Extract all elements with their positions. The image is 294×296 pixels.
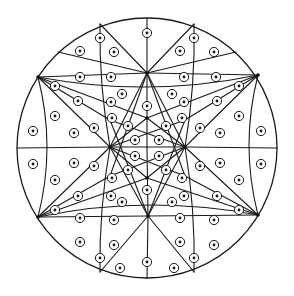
dot-in-circle-icon (69, 158, 78, 167)
marker-dot (165, 125, 168, 128)
marker-dot (193, 37, 196, 40)
marker-dot (173, 267, 176, 270)
marker-dot (199, 127, 202, 130)
marker-dot (127, 125, 130, 128)
marker-dot (119, 267, 122, 270)
dot-in-circle-icon (175, 213, 184, 222)
vertex-hub (256, 213, 260, 217)
marker-dot (238, 179, 241, 182)
vertical-axis-bottom (147, 216, 148, 278)
marker-dot (54, 179, 57, 182)
marker-dot (32, 130, 35, 133)
dot-in-circle-icon (75, 72, 84, 81)
dot-in-circle-icon (69, 128, 78, 137)
marker-dot (213, 244, 216, 247)
dot-in-circle-icon (123, 121, 132, 130)
marker-dot (146, 261, 149, 264)
spoke-line (38, 73, 147, 77)
marker-dot (219, 132, 222, 135)
arc-left (38, 77, 47, 217)
dot-in-circle-icon (73, 96, 82, 105)
vertex-hub (145, 116, 149, 120)
dot-in-circle-icon (50, 205, 59, 214)
marker-dot (213, 219, 216, 222)
dot-in-circle-icon (142, 28, 151, 37)
spoke-line (148, 215, 258, 216)
dot-in-circle-icon (50, 175, 59, 184)
marker-dot (165, 169, 168, 172)
marker-dot (54, 209, 57, 212)
marker-dot (199, 165, 202, 168)
vertex-hub (36, 215, 40, 219)
horizontal-axis-right (185, 147, 277, 148)
spoke-line (100, 216, 148, 272)
spoke-line (100, 24, 147, 73)
marker-dot (171, 201, 174, 204)
dot-in-circle-icon (167, 89, 176, 98)
dot-in-circle-icon (177, 173, 186, 182)
marker-dot (54, 115, 57, 118)
marker-dot (146, 32, 149, 35)
marker-dot (111, 177, 114, 180)
dot-in-circle-icon (75, 46, 84, 55)
dot-in-circle-icon (50, 111, 59, 120)
marker-dot (181, 177, 184, 180)
marker-dot (215, 76, 218, 79)
vertex-hub (145, 71, 149, 75)
dot-in-circle-icon (106, 97, 115, 106)
marker-dot (219, 162, 222, 165)
marker-dot (146, 105, 149, 108)
vertex-hub (36, 75, 40, 79)
marker-dot (216, 100, 219, 103)
dot-in-circle-icon (107, 113, 116, 122)
vertex-hub (108, 145, 112, 149)
spoke-line (147, 52, 236, 73)
spoke-line (185, 147, 258, 215)
dot-in-circle-icon (169, 263, 178, 272)
marker-dot (77, 195, 80, 198)
marker-dot (134, 155, 137, 158)
marker-dot (121, 93, 124, 96)
spoke-line (147, 73, 258, 75)
marker-dot (111, 117, 114, 120)
marker-dot (183, 101, 186, 104)
dot-in-circle-icon (106, 191, 115, 200)
vertex-hub (146, 214, 150, 218)
dot-in-circle-icon (189, 253, 198, 262)
marker-dot (54, 85, 57, 88)
dot-in-circle-icon (109, 47, 118, 56)
marker-dot (260, 130, 263, 133)
dot-in-circle-icon (234, 175, 243, 184)
horizontal-axis-left (17, 147, 110, 148)
marker-dot (179, 50, 182, 53)
dot-in-circle-icon (209, 215, 218, 224)
marker-dot (73, 162, 76, 165)
marker-dot (121, 201, 124, 204)
marker-dot (79, 50, 82, 53)
marker-dot (216, 195, 219, 198)
dot-in-circle-icon (212, 96, 221, 105)
marker-dot (238, 209, 241, 212)
marker-dot (127, 169, 130, 172)
marker-dot (113, 244, 116, 247)
dot-in-circle-icon (215, 128, 224, 137)
dot-in-circle-icon (256, 159, 265, 168)
diagram-canvas: Circle subdivided into regions, each mar… (0, 0, 294, 296)
dot-in-circle-icon (109, 240, 118, 249)
dot-in-circle-icon (95, 253, 104, 262)
dot-in-circle-icon (75, 237, 84, 246)
dot-in-circle-icon (211, 72, 220, 81)
marker-dot (110, 101, 113, 104)
dot-in-circle-icon (234, 81, 243, 90)
marker-dot (183, 76, 186, 79)
dot-in-circle-icon (234, 205, 243, 214)
dot-in-circle-icon (177, 113, 186, 122)
marker-dot (99, 257, 102, 260)
marker-dot (238, 85, 241, 88)
edges-group (17, 18, 277, 278)
dot-in-circle-icon (115, 263, 124, 272)
vertical-axis-lower (147, 148, 148, 216)
dot-in-circle-icon (179, 97, 188, 106)
dot-in-circle-icon (212, 191, 221, 200)
dot-in-circle-icon (215, 158, 224, 167)
